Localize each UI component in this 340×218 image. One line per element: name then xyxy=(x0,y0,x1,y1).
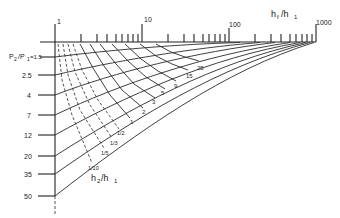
h-ratio-label-1-3: 1/3 xyxy=(110,140,118,146)
y-tick-label-7: 7 xyxy=(27,112,31,119)
h-ratio-title: h 2 /h 1 xyxy=(91,173,118,184)
x-tick-label-1: 1 xyxy=(57,18,61,25)
h-ratio-label-2: 2 xyxy=(142,109,146,115)
x-tick-label-100: 100 xyxy=(229,21,241,28)
h-ratio-label-25: 25 xyxy=(197,65,204,71)
h-ratio-label-3: 3 xyxy=(152,99,156,105)
svg-text:1: 1 xyxy=(294,14,298,20)
y-tick-label-12: 12 xyxy=(24,132,32,139)
y-tick-label-4: 4 xyxy=(27,92,31,99)
h-ratio-label-9: 9 xyxy=(174,83,178,89)
svg-text:=1.5: =1.5 xyxy=(30,54,43,60)
y-axis-ticks xyxy=(38,57,55,196)
svg-text:/h: /h xyxy=(281,9,289,19)
y-tick-label-35: 35 xyxy=(24,171,32,178)
svg-text:h: h xyxy=(91,173,96,183)
x-tick-label-1000: 1000 xyxy=(316,19,332,26)
x-tick-label-10: 10 xyxy=(144,16,152,23)
y-tick-label-50: 50 xyxy=(24,193,32,200)
svg-text:2: 2 xyxy=(14,56,17,62)
svg-text:1: 1 xyxy=(114,178,118,184)
svg-text:f: f xyxy=(277,14,279,20)
x-axis-ticks xyxy=(55,24,316,42)
h-ratio-label-1-5: 1/5 xyxy=(101,150,109,156)
nomogram-svg: 1 10 100 1000 h f /h 1 P 2 /P 1 =1.5 2.5… xyxy=(0,0,340,218)
h-ratio-label-15: 15 xyxy=(186,73,193,79)
x-axis-title: h f /h 1 xyxy=(271,9,298,20)
svg-text:/P: /P xyxy=(18,53,25,60)
h-ratio-label-1-2: 1/2 xyxy=(117,130,125,136)
svg-text:/h: /h xyxy=(101,173,109,183)
h-ratio-label-1-10: 1/10 xyxy=(88,165,99,171)
svg-text:h: h xyxy=(271,9,276,19)
nomogram: 1 10 100 1000 h f /h 1 P 2 /P 1 =1.5 2.5… xyxy=(0,0,340,218)
y-tick-label-20: 20 xyxy=(24,153,32,160)
y-tick-label-2.5: 2.5 xyxy=(22,72,32,79)
y-axis-title: P 2 /P 1 =1.5 xyxy=(9,53,43,62)
